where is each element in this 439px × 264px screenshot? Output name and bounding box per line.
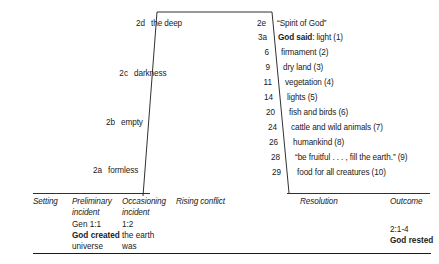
right-label-10: food for all creatures (10) [297, 168, 386, 178]
cell-occasioning-line2: the earth [122, 231, 154, 242]
left-ref-2: 2b [85, 118, 115, 128]
right-label-3: dry land (3) [283, 63, 323, 73]
right-ref-7: 24 [249, 123, 277, 133]
left-label-3: formless [108, 166, 138, 176]
column-header-preliminary-incident-line1: Preliminary [72, 197, 112, 207]
right-label-2: firmament (2) [281, 48, 328, 58]
right-ref-9: 28 [252, 153, 280, 163]
left-ref-1: 2c [98, 69, 128, 79]
right-label-7: cattle and wild animals (7) [291, 123, 383, 133]
column-header-outcome: Outcome [390, 197, 423, 207]
cell-preliminary-line2: God created [72, 231, 120, 242]
cell-preliminary-line3: universe [72, 242, 103, 253]
right-label-5: lights (5) [287, 93, 317, 103]
right-ref-10: 29 [253, 168, 281, 178]
column-header-occasioning-incident-line2: incident [122, 208, 149, 218]
column-header-occasioning-incident-line1: Occasioning [122, 197, 166, 207]
right-ref-4: 11 [244, 78, 272, 88]
left-label-1: darkness [134, 69, 166, 79]
diagram-canvas: 2d the deep 2c darkness 2b empty 2a form… [0, 0, 439, 264]
right-ref-3: 9 [242, 63, 270, 73]
column-header-rising-conflict: Rising conflict [176, 197, 225, 207]
right-label-4: vegetation (4) [285, 78, 334, 88]
cell-outcome-line1: 2:1-4 [390, 225, 409, 236]
right-label-0: “Spirit of God” [277, 19, 326, 29]
cell-preliminary-line1: Gen 1:1 [72, 220, 101, 231]
right-label-1-emphasis: God said [278, 33, 312, 42]
right-ref-5: 14 [245, 93, 273, 103]
column-header-setting: Setting [33, 197, 58, 207]
left-ref-0: 2d [115, 19, 145, 29]
right-label-6: fish and birds (6) [289, 108, 348, 118]
right-ref-8: 26 [250, 138, 278, 148]
left-label-0: the deep [151, 19, 182, 29]
right-label-8: humankind (8) [293, 138, 344, 148]
right-ref-2: 6 [241, 48, 269, 58]
cell-outcome-line2: God rested [390, 236, 433, 247]
left-ref-3: 2a [72, 166, 102, 176]
left-label-2: empty [121, 118, 143, 128]
right-label-1-rest: : light (1) [312, 33, 343, 42]
cell-occasioning-line3: was [122, 242, 137, 253]
right-ref-6: 20 [247, 108, 275, 118]
right-label-1: God said: light (1) [278, 33, 343, 43]
right-ref-0: 2e [238, 19, 266, 29]
rising-conflict-diagonal [143, 12, 157, 196]
cell-occasioning-line1: 1:2 [122, 220, 133, 231]
column-header-preliminary-incident-line2: incident [72, 208, 99, 218]
right-label-9: “be fruitful . . . , fill the earth.” (9… [295, 153, 407, 163]
right-ref-1: 3a [239, 33, 267, 43]
column-header-resolution: Resolution [300, 197, 338, 207]
